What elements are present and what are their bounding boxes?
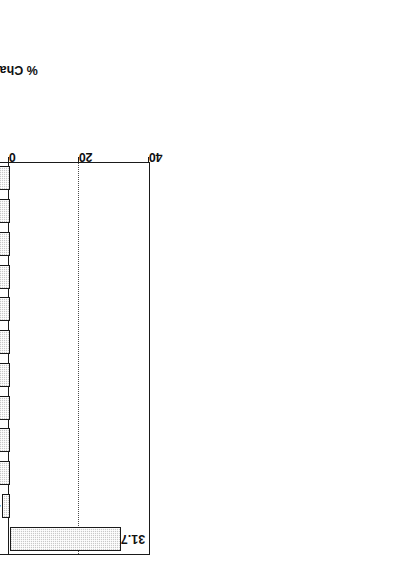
bar[interactable] (0, 330, 10, 354)
bar[interactable] (0, 199, 10, 223)
bar[interactable] (0, 166, 10, 190)
bar[interactable] (0, 363, 10, 387)
bar[interactable] (0, 232, 10, 256)
bars-layer: 31.7Department Stores-2.5Women's Apparel… (0, 162, 150, 555)
value-axis-title: % Change 1983-1993 (0, 63, 38, 77)
rotated-chart-stage: % Change 1983-1993 Type of Store 40200-2… (0, 0, 163, 577)
value-axis-tick-label: 40 (149, 150, 163, 164)
bar[interactable] (0, 428, 10, 452)
bar[interactable] (0, 396, 10, 420)
bar[interactable] (0, 265, 10, 289)
bar[interactable] (0, 297, 10, 321)
bar[interactable] (10, 527, 121, 551)
bar-chart-figure: % Change 1983-1993 Type of Store 40200-2… (0, 0, 163, 577)
bar-value-label: 31.7 (121, 532, 145, 546)
bar[interactable] (2, 494, 11, 518)
bar[interactable] (0, 461, 10, 485)
